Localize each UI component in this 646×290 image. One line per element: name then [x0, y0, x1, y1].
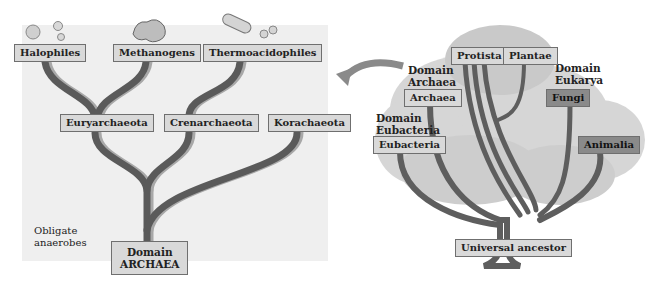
node-archaea: Archaea — [404, 89, 462, 107]
node-plantae: Plantae — [503, 47, 558, 65]
node-methanogens: Methanogens — [113, 44, 201, 62]
label-domain-eubacteria: Domain Eubacteria — [376, 112, 440, 136]
curved-arrow-icon — [336, 63, 403, 86]
label-line2: Archaea — [408, 76, 456, 88]
halophile-cells-icon — [26, 22, 65, 41]
label-line1: Domain — [555, 62, 603, 74]
label-domain-eukarya: Domain Eukarya — [555, 62, 603, 86]
node-universal-ancestor: Universal ancestor — [455, 239, 572, 257]
node-korachaeota: Korachaeota — [268, 114, 351, 132]
node-euryarchaeota: Euryarchaeota — [60, 114, 154, 132]
node-protista: Protista — [451, 47, 508, 65]
label-domain-archaea: Domain Archaea — [408, 64, 456, 88]
methanogen-cells-icon — [133, 20, 165, 42]
node-thermoacidophiles: Thermoacidophiles — [203, 44, 322, 62]
root-line1: Domain — [120, 246, 179, 258]
label-line2: Eukarya — [555, 74, 603, 86]
label-line1: Domain — [408, 64, 456, 76]
note-line1: Obligate — [34, 225, 87, 237]
thermoacidophile-cells-icon — [221, 12, 277, 38]
node-domain-archaea-root: Domain ARCHAEA — [111, 241, 188, 275]
label-line2: Eubacteria — [376, 124, 440, 136]
node-eubacteria: Eubacteria — [373, 136, 446, 154]
label-line1: Domain — [376, 112, 440, 124]
node-halophiles: Halophiles — [14, 44, 86, 62]
root-line2: ARCHAEA — [120, 258, 179, 270]
node-animalia: Animalia — [578, 136, 640, 154]
note-line2: anaerobes — [34, 237, 87, 249]
node-crenarchaeota: Crenarchaeota — [164, 114, 259, 132]
obligate-anaerobes-note: Obligate anaerobes — [34, 225, 87, 249]
node-fungi: Fungi — [546, 89, 590, 107]
